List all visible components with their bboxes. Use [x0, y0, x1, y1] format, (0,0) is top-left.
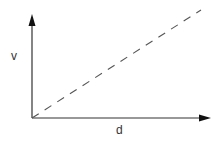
- y-axis-label: v: [11, 50, 17, 62]
- y-axis-arrow-icon: [29, 14, 36, 26]
- dashed-data-line: [32, 10, 201, 118]
- diagram-canvas: [0, 0, 219, 142]
- x-axis-label: d: [116, 124, 123, 136]
- x-axis-arrow-icon: [199, 115, 211, 122]
